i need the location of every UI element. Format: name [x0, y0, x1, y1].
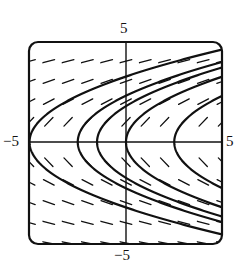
slope-segment: [43, 221, 55, 224]
slope-segment: [140, 60, 152, 63]
slope-segment: [62, 201, 73, 205]
slope-segment: [45, 117, 53, 126]
slope-segment: [82, 221, 94, 224]
x-min-tick-label: −5: [3, 134, 19, 149]
slope-segment: [101, 60, 113, 63]
slope-segment: [140, 79, 151, 83]
slope-segment: [160, 117, 168, 126]
slope-segment: [217, 40, 229, 42]
slope-segment: [197, 221, 209, 224]
slope-segment: [141, 158, 149, 167]
slope-segment: [62, 221, 74, 224]
slope-segment: [62, 60, 74, 63]
slope-segment: [45, 158, 53, 167]
slope-segment: [24, 40, 36, 42]
slope-segment: [140, 221, 152, 224]
y-min-tick-label: −5: [114, 248, 130, 263]
slope-segment: [199, 158, 207, 167]
slope-segment: [82, 180, 93, 186]
slope-segment: [140, 99, 151, 105]
slope-segment: [43, 60, 55, 63]
plot-area: [0, 0, 242, 267]
slope-segment: [82, 201, 93, 205]
slope-segment: [140, 201, 151, 205]
slope-segment: [199, 117, 207, 126]
slope-segment: [140, 180, 151, 186]
slope-segment: [179, 99, 190, 105]
slope-segment: [43, 99, 54, 105]
slope-segment: [197, 60, 209, 63]
slope-segment: [43, 79, 54, 83]
slope-segment: [43, 180, 54, 186]
slope-field-figure: 5 −5 −5 5: [0, 0, 242, 267]
y-max-tick-label: 5: [120, 21, 128, 36]
slope-segment: [64, 158, 72, 167]
slope-segment: [82, 99, 93, 105]
x-max-tick-label: 5: [226, 134, 234, 149]
slope-segment: [82, 60, 94, 63]
slope-segment: [43, 201, 54, 205]
slope-segment: [62, 79, 73, 83]
slope-segment: [82, 79, 93, 83]
slope-segment: [141, 117, 149, 126]
slope-segment: [160, 158, 168, 167]
slope-segment: [64, 117, 72, 126]
slope-segment: [179, 180, 190, 186]
slope-segment: [101, 221, 113, 224]
